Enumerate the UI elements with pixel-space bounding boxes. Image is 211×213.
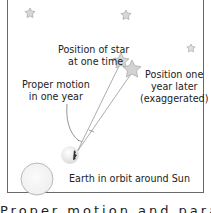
background-star-icon (25, 8, 35, 18)
label-earth-orbit: Earth in orbit around Sun (69, 173, 190, 185)
label-line: year later (140, 81, 208, 93)
label-line: Proper motion (22, 79, 90, 91)
label-star-position-later: Position one year later (exaggerated) (140, 69, 208, 105)
label-line: at one time (58, 56, 129, 68)
background-star-icon (187, 44, 195, 52)
label-line: (exaggerated) (140, 93, 208, 105)
label-line: Position of star (58, 44, 129, 56)
sun-icon (21, 163, 53, 195)
label-proper-motion: Proper motion in one year (22, 79, 90, 103)
background-star-icon (121, 10, 131, 20)
sight-line-now (77, 64, 120, 152)
label-star-position-now: Position of star at one time (58, 44, 129, 68)
proper-motion-leader-line (67, 104, 79, 141)
label-line: in one year (22, 91, 90, 103)
angle-tick (89, 130, 94, 132)
earth-icon (61, 146, 79, 164)
figure-caption: Proper motion and parallax (0, 203, 211, 213)
label-line: Position one (140, 69, 208, 81)
